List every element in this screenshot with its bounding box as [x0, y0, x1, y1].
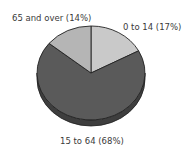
slice-label-0-to-14: 0 to 14 (17%) — [123, 22, 181, 32]
slice-label-15-to-64: 15 to 64 (68%) — [60, 136, 124, 146]
pie-chart: 65 and over (14%) 0 to 14 (17%) 15 to 64… — [0, 0, 188, 151]
slice-label-65-and-over: 65 and over (14%) — [12, 13, 91, 23]
